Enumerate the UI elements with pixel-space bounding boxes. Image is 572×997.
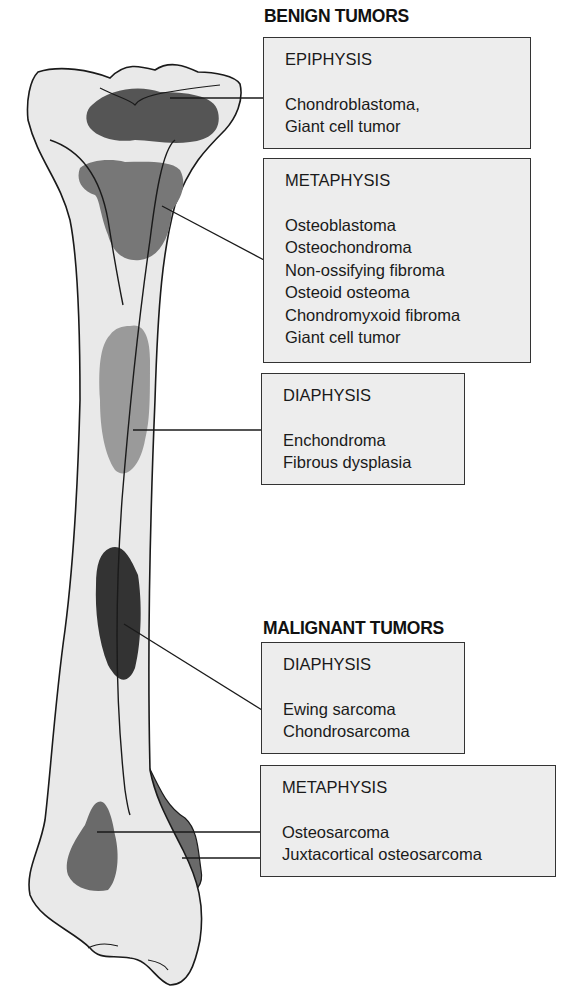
region-label: EPIPHYSIS [285, 48, 530, 71]
tumor-item: Giant cell tumor [285, 326, 530, 349]
tumor-item: Fibrous dysplasia [283, 451, 464, 474]
benign-diaphysis-box: DIAPHYSIS Enchondroma Fibrous dysplasia [261, 373, 465, 485]
tumor-item: Osteosarcoma [282, 821, 555, 844]
malignant-tumors-heading: MALIGNANT TUMORS [263, 618, 444, 639]
tumor-item: Non-ossifying fibroma [285, 259, 530, 282]
epiphysis-lesion [86, 88, 218, 142]
tumor-item: Ewing sarcoma [283, 698, 464, 721]
region-label: METAPHYSIS [285, 169, 530, 192]
tumor-item: Enchondroma [283, 429, 464, 452]
tumor-item: Chondroblastoma, [285, 93, 530, 116]
tumor-item: Osteochondroma [285, 236, 530, 259]
tumor-item: Osteoblastoma [285, 214, 530, 237]
tumor-item: Osteoid osteoma [285, 281, 530, 304]
benign-epiphysis-box: EPIPHYSIS Chondroblastoma, Giant cell tu… [263, 37, 531, 149]
benign-tumors-heading: BENIGN TUMORS [264, 6, 409, 27]
malignant-diaphysis-box: DIAPHYSIS Ewing sarcoma Chondrosarcoma [261, 642, 465, 754]
tumor-item: Juxtacortical osteosarcoma [282, 843, 555, 866]
malignant-metaphysis-box: METAPHYSIS Osteosarcoma Juxtacortical os… [260, 765, 556, 877]
region-label: DIAPHYSIS [283, 384, 464, 407]
benign-metaphysis-box: METAPHYSIS Osteoblastoma Osteochondroma … [263, 158, 531, 363]
tumor-item: Chondrosarcoma [283, 720, 464, 743]
region-label: DIAPHYSIS [283, 653, 464, 676]
region-label: METAPHYSIS [282, 776, 555, 799]
leader-line-metaphysis-benign [162, 206, 264, 260]
tumor-item: Chondromyxoid fibroma [285, 304, 530, 327]
tumor-item: Giant cell tumor [285, 115, 530, 138]
